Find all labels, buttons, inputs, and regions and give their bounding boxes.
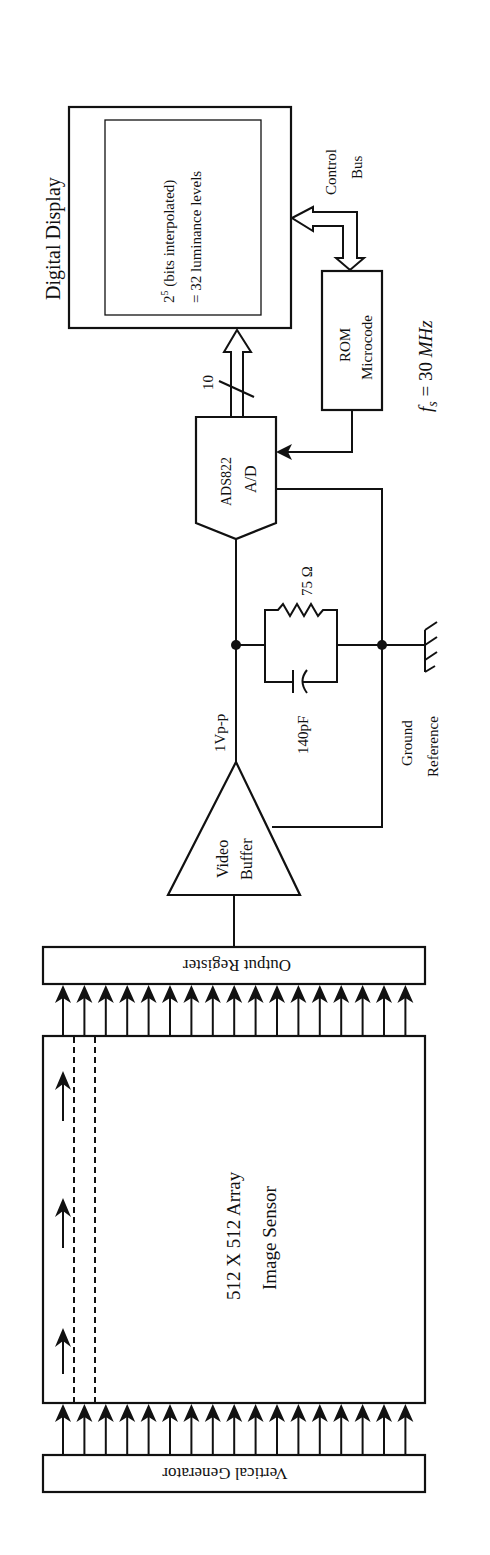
video-buffer-block: Video Buffer	[168, 762, 300, 947]
data-bus-arrow	[224, 330, 251, 417]
signal-level-label: 1Vp-p	[212, 714, 228, 752]
image-sensor-block: 512 X 512 Array Image Sensor	[43, 1036, 425, 1403]
microcode-label: Microcode	[359, 315, 375, 380]
rom-label: ROM	[337, 328, 353, 362]
ground-tick-1	[425, 622, 437, 630]
capacitor-label: 140pF	[295, 716, 311, 754]
resistor-75-ohm	[265, 604, 337, 645]
control-bus-label-line2: Bus	[349, 155, 365, 179]
horizontal-transfer-arrows	[55, 985, 413, 1036]
ground-tick-4	[425, 666, 435, 672]
control-bus: Control Bus	[292, 149, 365, 270]
image-sensor-label-line1: 512 X 512 Array	[223, 1171, 244, 1300]
vertical-generator-label: Vertical Generator	[162, 1464, 287, 1483]
rc-load-network: 75 Ω 140pF 1Vp-p	[212, 539, 425, 762]
bus-width-slash	[219, 381, 254, 397]
digital-display-title: Digital Display	[42, 177, 65, 300]
adc-block: ADS822 A/D	[196, 417, 382, 827]
adc-part-label: ADS822	[219, 457, 234, 506]
ccd-signal-chain-diagram: Digital Display 25 (bits interpolated) =…	[0, 0, 490, 1555]
bus-width-label: 10	[200, 375, 216, 390]
display-bits-line: 25 (bits interpolated)	[159, 180, 178, 303]
ground-label-line2: Reference	[425, 716, 441, 777]
output-register-block: Output Register	[43, 947, 425, 984]
adc-shape	[196, 417, 276, 539]
digital-display-box	[69, 107, 291, 328]
ground-return-line	[272, 489, 382, 827]
adc-type-label: A/D	[242, 465, 259, 493]
vertical-clock-arrows	[55, 1404, 413, 1455]
capacitor-left-lead	[265, 645, 293, 682]
display-levels-line: = 32 luminance levels	[188, 171, 204, 303]
ground-label-line1: Ground	[399, 720, 415, 766]
vertical-generator-block: Vertical Generator	[43, 1455, 425, 1492]
video-buffer-triangle	[168, 762, 300, 895]
video-buffer-label-line1: Video	[214, 840, 231, 878]
output-register-label: Output Register	[183, 956, 291, 975]
data-bus-10bit: 10	[200, 330, 254, 417]
control-bus-label-line1: Control	[323, 149, 339, 195]
ground-tick-3	[425, 652, 437, 660]
control-bus-arrow	[292, 207, 364, 270]
ground-tick-2	[425, 637, 437, 645]
resistor-label: 75 Ω	[299, 566, 315, 596]
image-sensor-label-line2: Image Sensor	[259, 1185, 280, 1290]
sample-rate-label: fs = 30 MHz	[415, 320, 440, 412]
digital-display-block: Digital Display 25 (bits interpolated) =…	[42, 107, 291, 328]
video-buffer-label-line2: Buffer	[238, 838, 255, 880]
capacitor-right-lead	[302, 645, 337, 682]
